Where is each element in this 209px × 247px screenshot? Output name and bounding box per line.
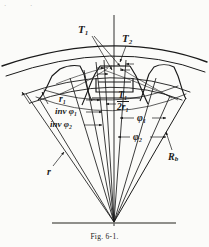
figure-caption: Fig. 6-1. [0, 231, 209, 241]
label-tooth-thickness-T1: T₁ [78, 24, 89, 35]
leader-r [53, 152, 64, 166]
label-fraction-T1-over-2r1: T₁ 2r₁ [117, 91, 129, 113]
fraction-denominator: 2r₁ [117, 103, 129, 113]
leader-Rb [166, 132, 172, 150]
gear-involute-diagram [0, 0, 209, 247]
label-pressure-angle-phi1: φ₁ [137, 113, 146, 123]
fraction-numerator: T₁ [117, 91, 129, 101]
label-radius-r: r [47, 167, 51, 177]
label-base-radius-base: R [168, 151, 175, 162]
label-base-radius-subscript: b [175, 155, 179, 163]
label-tooth-thickness-T2: T₂ [122, 33, 133, 44]
label-involute-phi2: inv φ₂ [50, 120, 72, 129]
radial-line-T1-left [96, 62, 114, 222]
tooth-space-outline [96, 78, 133, 92]
label-base-radius-Rb: Rb [168, 152, 178, 163]
leader-T2 [120, 46, 126, 62]
figure-page: · · [0, 0, 209, 247]
radial-line-T2-right [114, 60, 126, 222]
arcs-group [2, 46, 207, 111]
figure-caption-text: Fig. 6-1. [90, 232, 118, 241]
label-pitch-radius-r1: r₁ [59, 95, 66, 105]
label-involute-phi1: inv φ₁ [55, 107, 77, 116]
label-pressure-angle-phi2: φ₂ [133, 132, 142, 142]
arrow-edge-left-inner [42, 92, 48, 104]
